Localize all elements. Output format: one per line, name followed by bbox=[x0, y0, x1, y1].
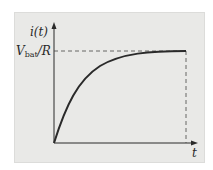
x-axis-label: t bbox=[192, 146, 197, 160]
asymptote-label: Vbat/R bbox=[16, 44, 51, 59]
x-axis-arrow-icon bbox=[191, 141, 198, 146]
y-axis-arrow-icon bbox=[52, 22, 57, 29]
y-axis-label: i(t) bbox=[30, 25, 48, 39]
rl-current-diagram: i(t) t Vbat/R bbox=[0, 0, 213, 170]
current-curve bbox=[54, 51, 186, 143]
